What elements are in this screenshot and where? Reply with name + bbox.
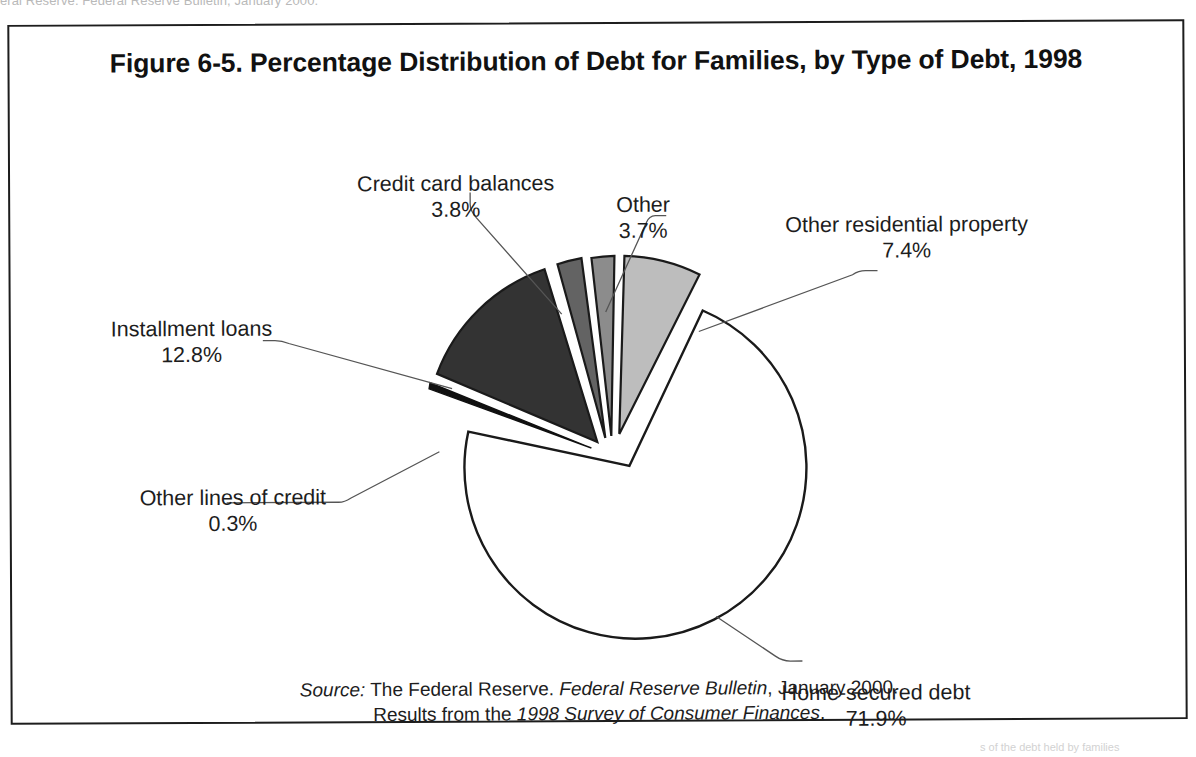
label-other: Other 3.7%	[616, 192, 670, 244]
label-other-name: Other	[616, 193, 670, 217]
label-credit-card: Credit card balances 3.8%	[357, 170, 554, 223]
label-other-residential-pct: 7.4%	[785, 237, 1028, 264]
label-installment-name: Installment loans	[111, 317, 272, 342]
label-other-lines-of-credit: Other lines of credit 0.3%	[140, 484, 327, 537]
figure-title: Figure 6-5. Percentage Distribution of D…	[9, 43, 1182, 80]
source-text-1: The Federal Reserve.	[365, 678, 559, 700]
label-other-lines-name: Other lines of credit	[140, 485, 327, 510]
label-credit-card-name: Credit card balances	[357, 171, 554, 196]
figure-frame: Figure 6-5. Percentage Distribution of D…	[7, 19, 1187, 725]
source-survey-name: 1998 Survey of Consumer Finances	[517, 702, 820, 724]
source-line2-text-2: .	[820, 702, 825, 723]
source-text-2: , January 2000.	[767, 677, 898, 699]
label-credit-card-pct: 3.8%	[357, 196, 554, 223]
label-installment: Installment loans 12.8%	[111, 316, 273, 369]
label-installment-pct: 12.8%	[111, 342, 272, 369]
label-other-residential-name: Other residential property	[785, 212, 1028, 237]
source-line2-text-1: Results from the	[373, 703, 517, 725]
pie-slice-other[interactable]	[591, 256, 615, 436]
leader-line-installment	[263, 340, 452, 390]
source-publication: Federal Reserve Bulletin	[559, 677, 767, 699]
scan-artifact-top: eral Reserve. Federal Reserve Bulletin, …	[0, 0, 560, 11]
label-other-pct: 3.7%	[616, 218, 670, 244]
label-other-lines-pct: 0.3%	[140, 510, 327, 537]
pie-chart: Credit card balances 3.8% Other 3.7% Oth…	[10, 83, 1190, 669]
source-note: Source: The Federal Reserve. Federal Res…	[12, 673, 1185, 729]
leader-line-home-secured	[716, 616, 802, 661]
leader-line-other-residential	[699, 271, 878, 332]
source-note-line-2: Results from the 1998 Survey of Consumer…	[13, 698, 1186, 729]
pie-chart-svg	[10, 83, 1190, 669]
scan-artifact-bottom: s of the debt held by families	[980, 741, 1196, 755]
source-label: Source:	[300, 679, 366, 700]
label-other-residential: Other residential property 7.4%	[785, 211, 1028, 264]
figure-inner: Figure 6-5. Percentage Distribution of D…	[9, 21, 1185, 723]
